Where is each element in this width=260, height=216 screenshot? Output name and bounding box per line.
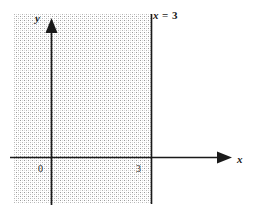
y-axis-label: y xyxy=(35,13,40,24)
origin-tick-label: 0 xyxy=(38,164,43,174)
inequality-graph-figure: y x 0 3 x = 3 xyxy=(0,0,260,216)
boundary-line-equation-label: x = 3 xyxy=(153,10,178,21)
x-axis-arrowhead-icon xyxy=(217,152,232,164)
x-axis-label: x xyxy=(237,154,243,165)
graph-canvas xyxy=(0,0,260,216)
x-tick-label-3: 3 xyxy=(136,164,141,174)
boundary-equation-value: 3 xyxy=(172,9,178,21)
boundary-equation-equals: = xyxy=(162,9,169,21)
shaded-region xyxy=(14,14,152,204)
